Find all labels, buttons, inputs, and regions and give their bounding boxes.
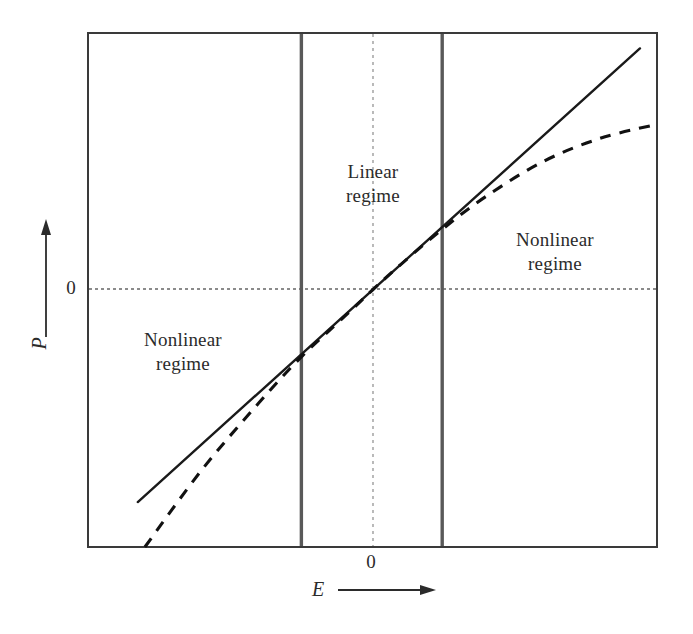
polarization-vs-field-figure: 0 0 P E Linear regime Nonlinear regime N… (0, 0, 693, 634)
annotation-nonlinear-right-line2: regime (485, 252, 625, 276)
up-arrow-icon (41, 219, 51, 235)
right-arrow-icon (420, 585, 436, 595)
x-axis-title: E (312, 578, 324, 601)
annotation-nonlinear-left-line2: regime (113, 352, 253, 376)
annotation-linear-regime: Linear regime (303, 160, 443, 208)
annotation-nonlinear-right-line1: Nonlinear (485, 228, 625, 252)
x-axis-zero-label: 0 (362, 551, 380, 573)
y-axis-zero-label: 0 (62, 277, 80, 299)
annotation-nonlinear-regime-left: Nonlinear regime (113, 328, 253, 376)
y-axis-title: P (28, 337, 51, 349)
plot-canvas (0, 0, 693, 634)
annotation-linear-regime-line2: regime (303, 184, 443, 208)
annotation-nonlinear-regime-right: Nonlinear regime (485, 228, 625, 276)
annotation-linear-regime-line1: Linear (303, 160, 443, 184)
annotation-nonlinear-left-line1: Nonlinear (113, 328, 253, 352)
